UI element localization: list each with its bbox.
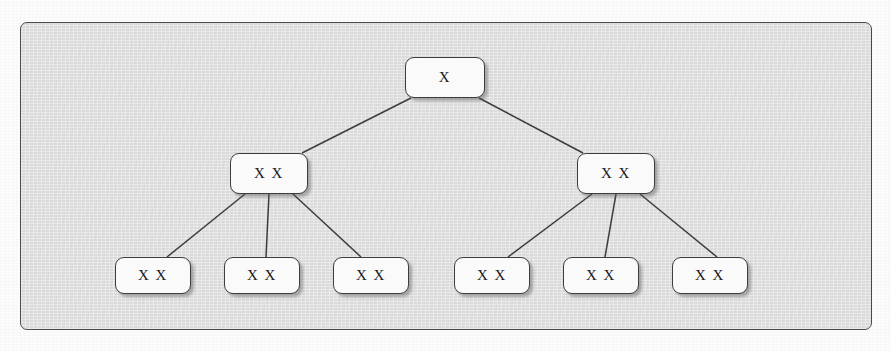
edge-midright-leaf4 [508,194,592,257]
tree-node-leaf-1[interactable]: X X [115,257,191,294]
tree-node-label: X X [247,268,277,283]
tree-node-leaf-5[interactable]: X X [563,257,639,294]
tree-node-leaf-4[interactable]: X X [454,257,530,294]
tree-node-label: X X [477,268,507,283]
edge-midleft-leaf2 [266,194,269,257]
tree-node-leaf-3[interactable]: X X [333,257,409,294]
edge-midright-leaf5 [605,194,616,257]
tree-node-leaf-2[interactable]: X X [224,257,300,294]
tree-node-label: X [439,70,451,85]
figure-root: X X X X X X X X X X X X X X X X X [0,0,891,351]
tree-node-label: X X [356,268,386,283]
edge-midleft-leaf1 [167,194,245,257]
tree-node-leaf-6[interactable]: X X [672,257,748,294]
tree-node-label: X X [695,268,725,283]
tree-node-label: X X [138,268,168,283]
diagram-panel: X X X X X X X X X X X X X X X X X [20,22,872,330]
tree-node-mid-right[interactable]: X X [577,153,655,194]
tree-node-label: X X [586,268,616,283]
edge-midleft-leaf3 [293,194,361,257]
edge-root-mid-right [479,98,583,153]
tree-node-root[interactable]: X [405,57,485,98]
tree-node-mid-left[interactable]: X X [230,153,308,194]
edge-midright-leaf6 [640,194,717,257]
edge-root-mid-left [302,98,411,153]
tree-node-label: X X [601,166,631,181]
tree-node-label: X X [254,166,284,181]
